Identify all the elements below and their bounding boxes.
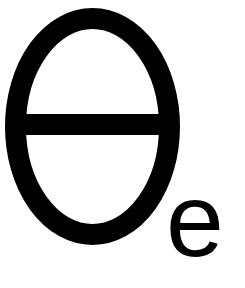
subscript-e: e — [166, 168, 224, 272]
theta-crossbar — [20, 114, 165, 135]
